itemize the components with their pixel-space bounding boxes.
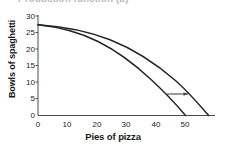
ppf-curve-outer — [38, 25, 209, 116]
y-tick-label-10: 10 — [26, 78, 35, 87]
x-tick-label-10: 10 — [63, 120, 72, 129]
y-tick-label-25: 25 — [26, 28, 35, 37]
plot-area: 30 25 20 15 10 5 0 0 10 20 30 40 50 — [0, 0, 229, 150]
x-tick-label-50: 50 — [181, 120, 190, 129]
x-tick-label-0: 0 — [36, 120, 41, 129]
x-tick-label-40: 40 — [152, 120, 161, 129]
y-tick-label-30: 30 — [26, 12, 35, 21]
production-possibilities-chart: Production function (b) Bowls of spaghet… — [0, 0, 229, 150]
y-tick-label-15: 15 — [26, 61, 35, 70]
y-tick-label-5: 5 — [31, 94, 36, 103]
y-tick-label-0: 0 — [31, 111, 36, 120]
y-tick-label-20: 20 — [26, 45, 35, 54]
x-tick-label-20: 20 — [93, 120, 102, 129]
x-tick-label-30: 30 — [122, 120, 131, 129]
shift-arrow-annotation — [167, 92, 188, 96]
